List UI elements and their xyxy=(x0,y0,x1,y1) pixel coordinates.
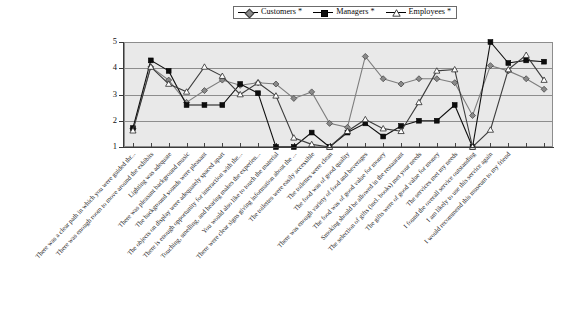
legend-entry-employees[interactable]: Employees * xyxy=(386,8,452,17)
y-tick-5 xyxy=(119,42,123,43)
data-point xyxy=(487,63,493,69)
data-point xyxy=(398,81,404,87)
data-point xyxy=(381,134,386,139)
y-tick-4 xyxy=(119,68,123,69)
data-point xyxy=(434,118,439,123)
chart-legend: Customers * Managers * Employees * xyxy=(233,6,457,19)
chart-container: Customers * Managers * Employees * 54321 xyxy=(0,0,565,330)
data-point xyxy=(506,61,511,66)
series-line-diamond xyxy=(133,56,544,128)
data-point xyxy=(416,76,422,82)
data-point xyxy=(541,86,547,92)
data-point xyxy=(470,113,476,119)
data-point xyxy=(184,103,189,108)
data-point xyxy=(309,89,315,95)
data-point xyxy=(201,88,207,94)
y-tick-label-3: 3 xyxy=(103,90,117,99)
data-point xyxy=(523,76,529,82)
customers-diamond-marker-icon xyxy=(238,8,258,17)
employees-triangle-marker-icon xyxy=(386,8,406,17)
data-point xyxy=(434,76,440,82)
series-line-square xyxy=(133,42,544,147)
data-point xyxy=(488,40,493,45)
y-tick-2 xyxy=(119,121,123,122)
data-point xyxy=(487,127,493,132)
data-point xyxy=(524,58,529,63)
data-point xyxy=(238,82,243,87)
legend-entry-customers[interactable]: Customers * xyxy=(238,8,302,17)
legend-label-employees: Employees * xyxy=(409,8,452,16)
data-point xyxy=(327,120,333,126)
data-point xyxy=(219,73,225,78)
x-axis-category-labels: There was a clear path in which you were… xyxy=(0,148,565,330)
data-point xyxy=(416,99,422,104)
legend-entry-managers[interactable]: Managers * xyxy=(313,8,374,17)
data-point xyxy=(148,58,153,63)
data-point xyxy=(452,66,458,71)
data-point xyxy=(166,68,171,73)
managers-square-marker-icon xyxy=(313,8,333,17)
data-point xyxy=(291,135,297,140)
plot-area xyxy=(124,42,553,147)
data-point xyxy=(201,64,207,69)
series-lines xyxy=(124,42,553,147)
data-point xyxy=(202,103,207,108)
data-point xyxy=(417,118,422,123)
data-point xyxy=(452,103,457,108)
data-point xyxy=(523,52,529,57)
data-point xyxy=(220,103,225,108)
y-tick-label-5: 5 xyxy=(103,37,117,46)
data-point xyxy=(362,116,368,121)
legend-label-managers: Managers * xyxy=(336,8,374,16)
data-point xyxy=(309,130,314,135)
data-point xyxy=(542,59,547,64)
data-point xyxy=(256,91,261,96)
series-line-triangle-open xyxy=(133,55,544,147)
y-tick-label-2: 2 xyxy=(103,116,117,125)
data-point xyxy=(273,93,279,98)
legend-label-customers: Customers * xyxy=(261,8,302,16)
y-tick-label-4: 4 xyxy=(103,63,117,72)
y-tick-3 xyxy=(119,95,123,96)
data-point xyxy=(380,126,386,131)
triangle-open-glyph xyxy=(392,9,401,17)
x-category-label: There was a clear path in which you were… xyxy=(34,151,136,260)
